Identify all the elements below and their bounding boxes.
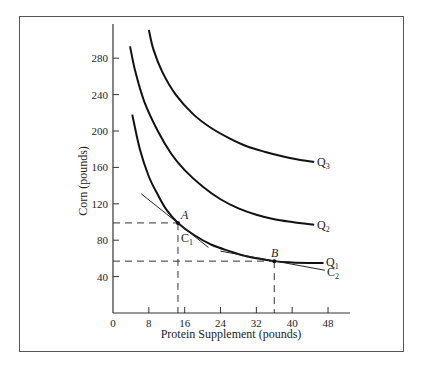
point-a (176, 221, 180, 225)
isoquant-q3 (149, 30, 314, 162)
y-tick-label: 80 (97, 234, 109, 246)
y-ticks: 4080120160200240280 (92, 52, 120, 282)
y-axis-title: Corn (pounds) (76, 146, 90, 216)
x-ticks: 081624324048 (110, 307, 334, 329)
y-tick-label: 160 (92, 161, 109, 173)
point-b-label: B (271, 246, 279, 260)
y-tick-label: 280 (92, 52, 109, 64)
y-tick-label: 240 (92, 89, 109, 101)
x-tick-label: 48 (323, 317, 335, 329)
y-tick-label: 120 (92, 198, 109, 210)
point-a-label: A (180, 208, 189, 222)
cost-line-c1 (141, 194, 208, 248)
q3-label: Q3 (317, 155, 330, 171)
q1-label: Q1 (326, 255, 339, 271)
isoquant-chart: 081624324048 4080120160200240280 Protein… (0, 0, 422, 370)
y-tick-label: 200 (92, 125, 109, 137)
axes (113, 24, 350, 313)
x-tick-label: 8 (146, 317, 152, 329)
y-tick-label: 40 (97, 271, 109, 283)
q2-label: Q2 (317, 218, 330, 234)
x-axis-title: Protein Supplement (pounds) (161, 327, 302, 341)
dashed-guides (113, 223, 274, 313)
isoquant-curves (130, 30, 324, 263)
x-tick-label: 0 (110, 317, 116, 329)
